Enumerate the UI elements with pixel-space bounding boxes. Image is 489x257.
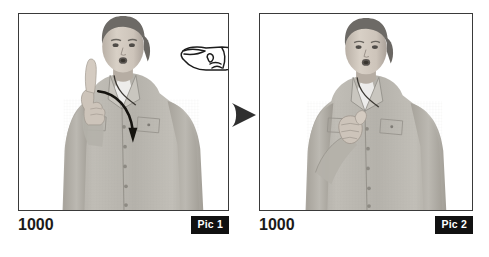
panel-1-frame-number: 1000 (18, 217, 54, 233)
panel-2-photo (260, 14, 472, 210)
figure-canvas: 1000 Pic 1 (0, 0, 489, 257)
pointing-index-finger-hand-icon (175, 34, 229, 80)
sequence-arrow (231, 102, 257, 128)
panel-2-caption: 1000 Pic 2 (259, 212, 473, 238)
panel-2-frame (259, 13, 473, 211)
panel-2-badge: Pic 2 (435, 216, 473, 234)
panel-1-caption: 1000 Pic 1 (18, 212, 229, 238)
panel-1-badge: Pic 1 (191, 216, 229, 234)
panel-1-frame (18, 13, 229, 211)
sign-panel-1 (18, 13, 229, 211)
panel-2-frame-number: 1000 (259, 217, 295, 233)
sign-panel-2 (259, 13, 473, 211)
